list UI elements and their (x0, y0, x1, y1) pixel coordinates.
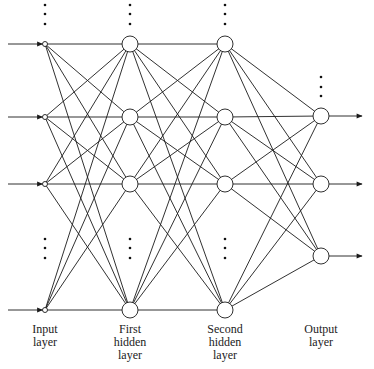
connection-second-hidden-3-to-output-2 (225, 256, 321, 310)
ellipsis-dot-icon (320, 76, 323, 79)
layer-labels: InputlayerFirsthiddenlayerSecondhiddenla… (32, 322, 338, 362)
connection-second-hidden-3-to-output-1 (225, 184, 321, 310)
output-node-2 (313, 248, 329, 264)
first-hidden-layer-label: First (119, 322, 142, 336)
first-hidden-node-1 (122, 109, 138, 125)
input-node-2 (43, 182, 48, 187)
second-hidden-node-3 (217, 302, 233, 318)
input-layer-label: Input (32, 322, 58, 336)
ellipsis-dot-icon (44, 238, 47, 241)
first-hidden-layer-label: hidden (114, 335, 147, 349)
first-hidden-node-2 (122, 176, 138, 192)
ellipsis-dot-icon (129, 23, 132, 26)
connection-second-hidden-1-to-output-0 (225, 116, 321, 117)
input-node-3 (43, 308, 48, 313)
second-hidden-node-0 (217, 36, 233, 52)
ellipsis-dot-icon (44, 13, 47, 16)
first-hidden-node-0 (122, 36, 138, 52)
ellipsis-dot-icon (129, 257, 132, 260)
ellipsis-dot-icon (129, 13, 132, 16)
ellipsis-dot-icon (44, 247, 47, 250)
second-hidden-node-2 (217, 176, 233, 192)
ellipsis-dot-icon (129, 4, 132, 7)
first-hidden-layer-label: layer (118, 348, 142, 362)
second-hidden-node-1 (217, 109, 233, 125)
ellipsis-dot-icon (224, 4, 227, 7)
output-node-1 (313, 176, 329, 192)
connection-second-hidden-2-to-output-2 (225, 184, 321, 256)
neural-network-diagram: InputlayerFirsthiddenlayerSecondhiddenla… (0, 0, 374, 369)
connections (45, 44, 321, 310)
ellipsis-dot-icon (44, 23, 47, 26)
output-layer-label: Output (304, 322, 338, 336)
ellipsis-dot-icon (320, 86, 323, 89)
ellipsis-dot-icon (224, 257, 227, 260)
ellipsis-dot-icon (44, 4, 47, 7)
second-hidden-layer-label: layer (213, 348, 237, 362)
connection-second-hidden-1-to-output-2 (225, 117, 321, 256)
first-hidden-node-3 (122, 302, 138, 318)
ellipsis-dot-icon (224, 247, 227, 250)
output-layer-label: layer (309, 335, 333, 349)
ellipsis-dot-icon (44, 257, 47, 260)
ellipsis-dot-icon (129, 238, 132, 241)
ellipsis-dot-icon (129, 247, 132, 250)
ellipsis-dot-icon (224, 238, 227, 241)
second-hidden-layer-label: hidden (209, 335, 242, 349)
connection-second-hidden-3-to-output-0 (225, 116, 321, 310)
ellipsis-dot-icon (224, 13, 227, 16)
input-node-0 (43, 42, 48, 47)
input-node-1 (43, 115, 48, 120)
input-layer-label: layer (33, 335, 57, 349)
output-node-0 (313, 108, 329, 124)
connection-second-hidden-0-to-output-0 (225, 44, 321, 116)
io-arrows (8, 44, 362, 310)
ellipsis-markers (44, 4, 323, 260)
second-hidden-layer-label: Second (207, 322, 242, 336)
ellipsis-dot-icon (320, 95, 323, 98)
connection-second-hidden-0-to-output-1 (225, 44, 321, 184)
ellipsis-dot-icon (224, 23, 227, 26)
